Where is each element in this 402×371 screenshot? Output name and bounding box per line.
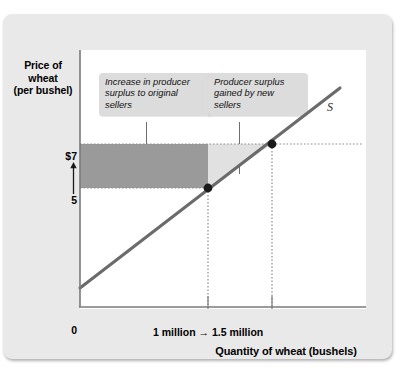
- y-axis-title-line-1: Price of: [7, 59, 79, 72]
- y-axis-title-line-3: (per bushel): [7, 84, 79, 97]
- annotation-increase-to-original-sellers: Increase in producer surplus to original…: [99, 73, 213, 116]
- annotation-gained-by-new-sellers: Producer surplus gained by new sellers: [208, 73, 308, 116]
- x-tick-label-from: 1 million: [153, 326, 196, 338]
- x-tick-labels: 1 million → 1.5 million: [153, 326, 353, 338]
- annotation-pointer-new-sellers: [239, 122, 240, 174]
- x-tick-label-to: 1.5 million: [212, 326, 263, 338]
- y-tick-label-7: $7: [47, 150, 77, 162]
- quantity-increase-arrow-icon: →: [199, 326, 210, 338]
- origin-label: 0: [47, 324, 77, 336]
- supply-curve-label: S: [327, 100, 333, 115]
- y-axis-title: Price of wheat (per bushel): [7, 59, 79, 97]
- y-axis-title-line-2: wheat: [7, 72, 79, 85]
- figure-card: Price of wheat (per bushel) $7 5 0 1 mil…: [3, 14, 392, 359]
- annotation-pointer-original-sellers: [146, 122, 147, 178]
- x-axis-title: Quantity of wheat (bushels): [181, 345, 391, 357]
- y-tick-label-5: 5: [47, 194, 77, 206]
- price-increase-arrow-icon: [69, 162, 78, 194]
